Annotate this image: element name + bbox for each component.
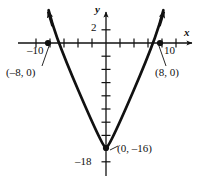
x-axis-label: x bbox=[184, 27, 190, 38]
graph-figure: y x 2 –18 –10 10 (–8, 0) (8, 0) (0, –16) bbox=[0, 0, 202, 180]
x-tick-label-minus10: –10 bbox=[27, 45, 44, 56]
point-right-root bbox=[157, 40, 163, 46]
x-tick-label-10: 10 bbox=[164, 45, 175, 56]
point-left-root bbox=[45, 40, 51, 46]
y-axis-label: y bbox=[95, 4, 100, 15]
right-root-label: (8, 0) bbox=[155, 67, 179, 78]
point-vertex bbox=[103, 145, 109, 151]
coordinate-plane-svg bbox=[0, 0, 202, 180]
leader-lines bbox=[42, 46, 166, 150]
y-tick-label-2: 2 bbox=[91, 22, 97, 33]
vertex-label: (0, –16) bbox=[117, 143, 152, 154]
y-tick-label-minus18: –18 bbox=[75, 156, 92, 167]
left-root-label: (–8, 0) bbox=[6, 67, 35, 78]
